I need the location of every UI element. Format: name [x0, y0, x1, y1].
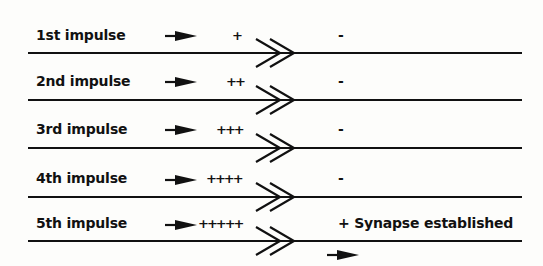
- impulse-label: 3rd impulse: [36, 121, 127, 137]
- charge-marks: +: [232, 28, 241, 43]
- charge-marks: +++: [216, 122, 243, 137]
- charge-marks: ++: [226, 74, 244, 89]
- charge-marks: ++++: [206, 171, 242, 186]
- post-state: -: [338, 170, 344, 186]
- impulse-label: 2nd impulse: [36, 73, 130, 89]
- impulse-row-3: 3rd impulse +++ -: [0, 121, 543, 169]
- charge-marks: +++++: [198, 216, 242, 231]
- impulse-label: 5th impulse: [36, 215, 127, 231]
- impulse-row-1: 1st impulse + -: [0, 27, 543, 75]
- impulse-label: 4th impulse: [36, 170, 127, 186]
- synapse-established-label: + Synapse established: [338, 215, 513, 231]
- impulse-row-2: 2nd impulse ++ -: [0, 73, 543, 121]
- impulse-label: 1st impulse: [36, 27, 125, 43]
- post-state: -: [338, 121, 344, 137]
- impulse-row-4: 4th impulse ++++ -: [0, 170, 543, 218]
- post-state: -: [338, 73, 344, 89]
- post-state: -: [338, 27, 344, 43]
- impulse-row-5: 5th impulse +++++ + Synapse established: [0, 215, 543, 263]
